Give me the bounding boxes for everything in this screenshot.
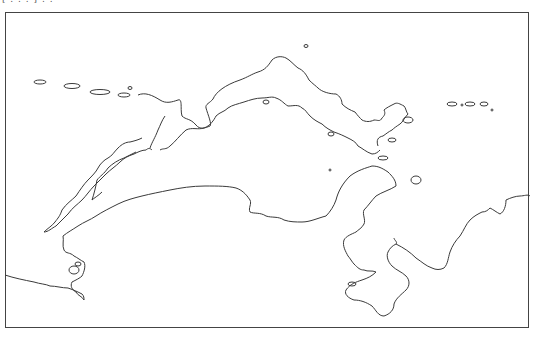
- island-chain-west: [34, 80, 132, 97]
- eastern-coast: [396, 195, 530, 269]
- western-inlet: [92, 152, 136, 200]
- small-islands: [69, 45, 421, 287]
- southern-lobe: [345, 238, 409, 316]
- central-coastline: [63, 166, 396, 300]
- island-chain-east: [447, 102, 493, 111]
- north-inner-coast: [150, 97, 380, 154]
- coastline-map: [0, 0, 536, 337]
- north-coastline: [138, 57, 408, 146]
